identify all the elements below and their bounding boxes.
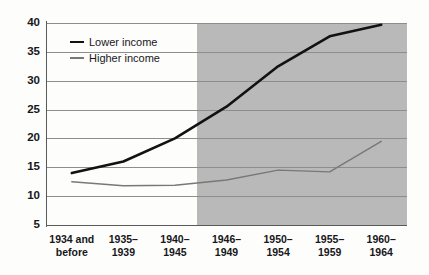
legend: Lower income Higher income: [70, 34, 160, 66]
gridline: [46, 196, 407, 197]
legend-item-lower-income: Lower income: [70, 34, 160, 50]
legend-label-higher-income: Higher income: [89, 52, 160, 64]
y-axis-tick-label: 10: [0, 190, 40, 202]
shaded-region-highlight: [197, 23, 407, 225]
legend-item-higher-income: Higher income: [70, 50, 160, 66]
gridline: [46, 167, 407, 168]
y-axis-tick-label: 20: [0, 132, 40, 144]
y-axis-tick-label: 5: [0, 219, 40, 231]
gridline: [46, 110, 407, 111]
gridline: [46, 23, 407, 24]
gridline: [46, 138, 407, 139]
y-axis-tick-label: 25: [0, 104, 40, 116]
y-axis-tick-label: 35: [0, 46, 40, 58]
y-axis-tick-label: 15: [0, 161, 40, 173]
y-axis-line: [46, 21, 47, 227]
legend-swatch-higher-income: [70, 57, 84, 58]
legend-swatch-lower-income: [70, 41, 84, 44]
x-axis-line: [46, 225, 407, 226]
x-axis-tick-label: 1960–1964: [351, 233, 411, 259]
y-axis-tick-label: 40: [0, 17, 40, 29]
y-axis-tick-label: 30: [0, 75, 40, 87]
gridline: [46, 81, 407, 82]
legend-label-lower-income: Lower income: [89, 36, 157, 48]
line-chart: 510152025303540 1934 andbefore1935–19391…: [0, 0, 429, 275]
